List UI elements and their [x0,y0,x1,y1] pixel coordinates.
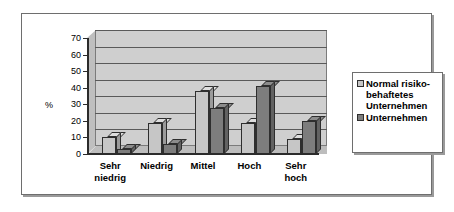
legend-entry: Unternehmen [357,112,438,123]
y-axis-tick-labels: 010203040506070 [51,30,81,154]
y-axis-tick-label: 50 [71,67,81,76]
bar-side-face [316,116,321,154]
chart-frame: 010203040506070 % Sehr niedrigNiedrigMit… [21,13,432,195]
y-axis-tick [83,55,88,56]
bar-front-face [148,123,162,154]
bar-front-face [287,139,301,154]
x-axis-line [87,153,319,155]
y-axis-tick [83,38,88,39]
bar-front-face [256,86,270,154]
y-axis-tick-label: 30 [71,100,81,109]
legend-entry: Normal risiko- behaftetes Unternehmen [357,78,438,111]
y-axis-tick-label: 20 [71,117,81,126]
gridline [95,80,327,81]
y-axis-tick-label: 60 [71,51,81,60]
plot-area [87,30,327,154]
y-axis-tick-label: 40 [71,84,81,93]
bar-front-face [241,123,255,154]
x-axis-category-label: Sehr hoch [273,160,319,183]
x-axis-category-label: Hoch [226,160,272,172]
chart-legend: Normal risiko- behaftetes UnternehmenUnt… [352,72,443,153]
legend-swatch-icon [357,114,364,121]
x-axis-category-label: Sehr niedrig [87,160,133,183]
bar-front-face [102,137,116,154]
y-axis-tick [83,121,88,122]
gridline [95,47,327,48]
y-axis-tick-label: 70 [71,34,81,43]
y-axis-unit-label: % [45,100,53,110]
bar-side-face [224,103,229,154]
bar-front-face [302,121,316,154]
legend-label: Unternehmen [366,112,427,123]
bar-front-face [210,108,224,154]
x-axis-category-labels: Sehr niedrigNiedrigMittelHochSehr hoch [87,160,332,194]
legend-label: Normal risiko- behaftetes Unternehmen [366,78,430,111]
x-axis-category-label: Mittel [180,160,226,172]
y-axis-tick [83,137,88,138]
y-axis-tick [83,154,88,155]
bar-side-face [270,81,275,154]
gridline [95,30,327,31]
bar-front-face [195,91,209,154]
gridline [95,63,327,64]
y-axis-tick [83,104,88,105]
y-axis-tick-label: 10 [71,133,81,142]
legend-swatch-icon [357,80,364,87]
y-axis-tick-label: 0 [76,150,81,159]
y-axis-tick [83,71,88,72]
y-axis-tick [83,88,88,89]
x-axis-category-label: Niedrig [133,160,179,172]
